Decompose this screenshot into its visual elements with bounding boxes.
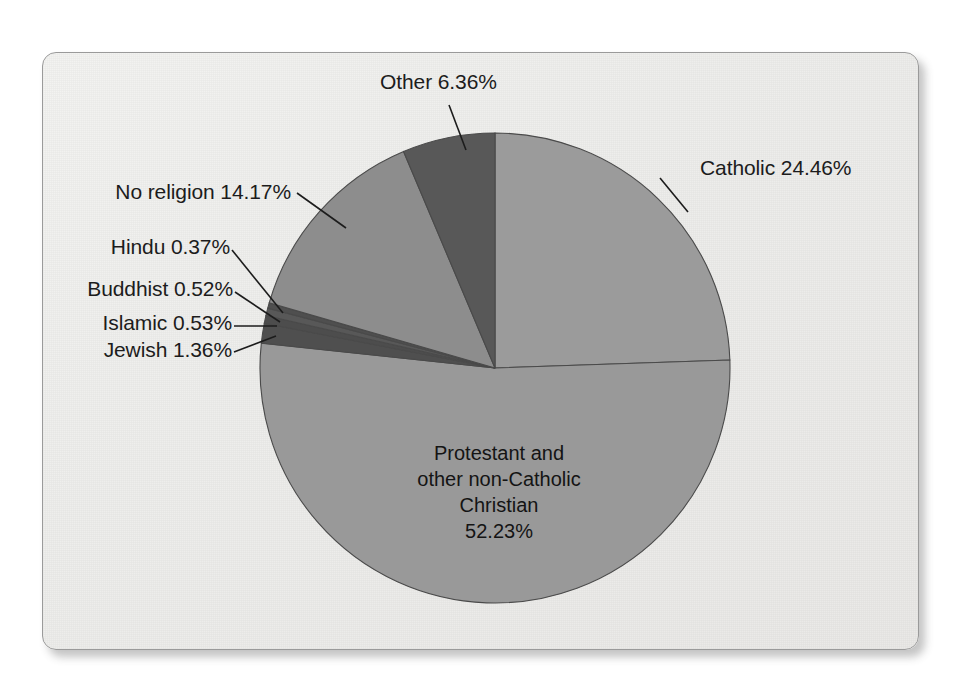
- slice-label-jewish-text: Jewish 1.36%: [104, 338, 232, 361]
- slice-label-protestant: Protestant and other non-Catholic Christ…: [375, 440, 623, 544]
- slice-label-no-religion-text: No religion 14.17%: [115, 180, 291, 203]
- slice-label-islamic: Islamic 0.53%: [103, 311, 232, 335]
- slice-label-hindu-text: Hindu 0.37%: [111, 235, 230, 258]
- figure-container: Other 6.36% Catholic 24.46% No religion …: [0, 0, 973, 684]
- slice-label-buddhist: Buddhist 0.52%: [87, 277, 233, 301]
- slice-label-protestant-line4: 52.23%: [375, 518, 623, 544]
- slice-label-no-religion: No religion 14.17%: [115, 180, 291, 204]
- leader-line-hindu: [232, 250, 283, 313]
- pie-slice-catholic[interactable]: [495, 133, 730, 368]
- slice-label-jewish: Jewish 1.36%: [104, 338, 232, 362]
- slice-label-buddhist-text: Buddhist 0.52%: [87, 277, 233, 300]
- slice-label-catholic-text: Catholic 24.46%: [700, 156, 851, 179]
- slice-label-protestant-line3: Christian: [375, 492, 623, 518]
- slice-label-other: Other 6.36%: [380, 70, 497, 94]
- slice-label-other-text: Other 6.36%: [380, 70, 497, 93]
- slice-label-protestant-line1: Protestant and: [375, 440, 623, 466]
- slice-label-islamic-text: Islamic 0.53%: [103, 311, 232, 334]
- slice-label-catholic: Catholic 24.46%: [700, 156, 851, 180]
- slice-label-hindu: Hindu 0.37%: [111, 235, 230, 259]
- slice-label-protestant-line2: other non-Catholic: [375, 466, 623, 492]
